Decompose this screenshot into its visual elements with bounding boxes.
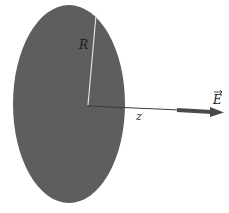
radius-label: R (78, 38, 88, 52)
z-axis-label: z (135, 110, 142, 123)
field-vector-label: E (212, 93, 222, 107)
charged-disk-diagram: R z E (0, 0, 229, 213)
disk (13, 5, 125, 203)
field-vector-arrow (177, 107, 224, 117)
